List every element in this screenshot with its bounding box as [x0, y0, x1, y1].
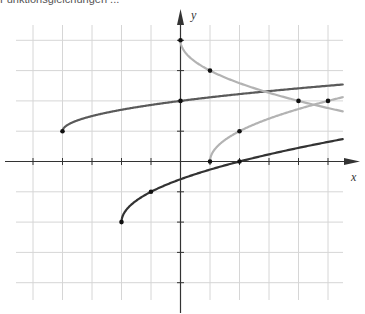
data-point	[237, 129, 242, 134]
function-plot: y x	[0, 0, 365, 314]
data-point	[296, 99, 301, 104]
data-point	[237, 159, 242, 164]
data-point	[208, 159, 213, 164]
data-point	[208, 68, 213, 73]
data-point	[60, 129, 65, 134]
y-axis-label: y	[190, 8, 197, 22]
curve-lower-dark	[122, 139, 343, 222]
data-point	[119, 220, 124, 225]
x-axis-arrow-icon	[344, 158, 360, 165]
axes	[5, 9, 360, 313]
data-point	[178, 38, 183, 43]
data-point	[326, 99, 331, 104]
data-point	[178, 99, 183, 104]
grid-lines	[16, 25, 343, 300]
data-point	[149, 190, 154, 195]
x-axis-label: x	[350, 170, 357, 184]
y-axis-arrow-icon	[177, 9, 184, 25]
